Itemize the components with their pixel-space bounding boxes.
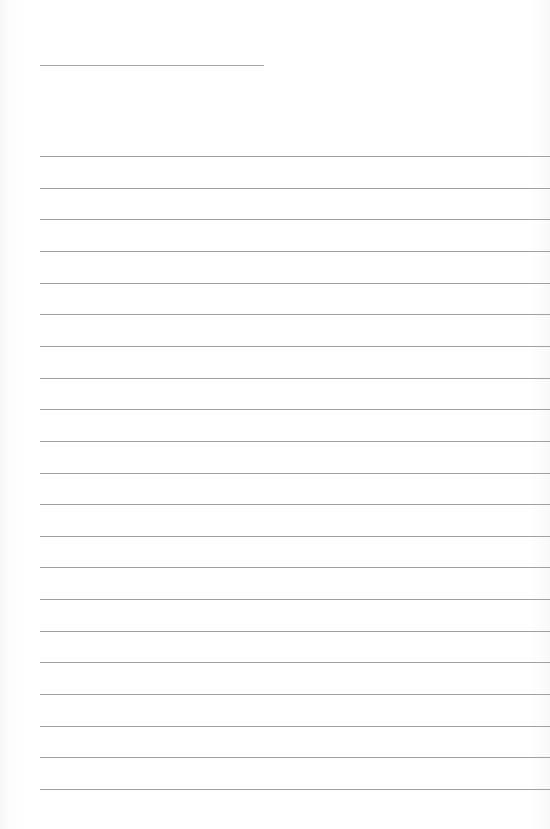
header-name-line [40, 65, 264, 66]
ruled-line [40, 378, 550, 379]
ruled-line [40, 473, 550, 474]
ruled-line [40, 536, 550, 537]
ruled-line [40, 567, 550, 568]
ruled-line [40, 757, 550, 758]
ruled-line [40, 726, 550, 727]
ruled-line [40, 346, 550, 347]
ruled-line [40, 504, 550, 505]
ruled-line [40, 409, 550, 410]
ruled-line [40, 188, 550, 189]
ruled-line [40, 662, 550, 663]
ruled-line [40, 789, 550, 790]
ruled-line [40, 251, 550, 252]
ruled-line [40, 156, 550, 157]
lined-paper-page [0, 0, 550, 829]
ruled-line [40, 314, 550, 315]
ruled-line [40, 694, 550, 695]
ruled-line [40, 599, 550, 600]
ruled-line [40, 219, 550, 220]
ruled-line [40, 441, 550, 442]
ruled-line [40, 283, 550, 284]
ruled-line [40, 631, 550, 632]
